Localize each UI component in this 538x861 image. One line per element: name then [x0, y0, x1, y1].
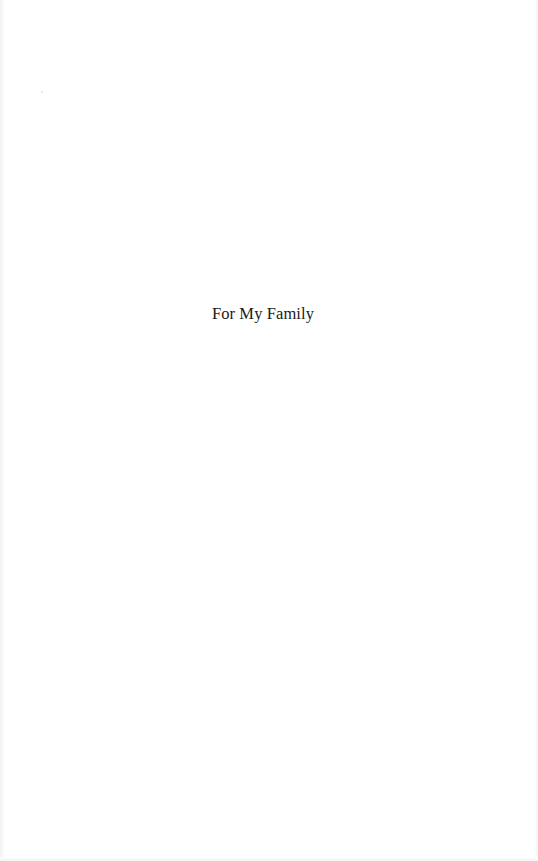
- scan-edge-bottom: [0, 857, 538, 861]
- scan-speck: [41, 91, 43, 93]
- book-page: For My Family: [0, 0, 538, 861]
- scan-edge-left: [0, 0, 5, 861]
- dedication-text: For My Family: [0, 303, 526, 325]
